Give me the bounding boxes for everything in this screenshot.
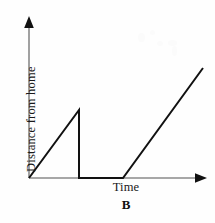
y-axis-label: Distance from home	[23, 12, 39, 172]
distance-time-curve	[29, 68, 203, 178]
x-axis-label: Time	[96, 180, 156, 195]
panel-caption: B	[96, 197, 156, 213]
x-axis-arrowhead-icon	[195, 173, 207, 183]
distance-time-graph-figure: Distance from home Time B	[0, 0, 215, 223]
